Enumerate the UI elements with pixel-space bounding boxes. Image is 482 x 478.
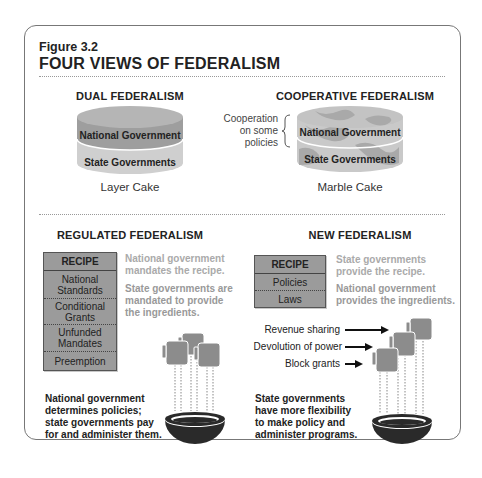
arrow-label-block-grants: Block grants <box>230 358 340 369</box>
brace-icon <box>282 114 292 148</box>
note-line: provides the ingredients. <box>336 295 455 307</box>
new-cans-bowl-icon <box>370 318 450 443</box>
coop-state-label: State Governments <box>295 154 405 165</box>
summary-line: determines policies; <box>45 405 162 417</box>
regulated-note-ingredients: State governments are mandated to provid… <box>125 283 233 319</box>
summary-line: administer programs. <box>255 429 357 441</box>
new-heading: NEW FEDERALISM <box>290 229 430 241</box>
cooperation-note: Cooperation on some policies <box>222 113 278 149</box>
note-line: State governments are <box>125 283 233 295</box>
recipe-item: Policies <box>255 274 325 290</box>
regulated-heading: REGULATED FEDERALISM <box>55 229 205 241</box>
note-line: provide the recipe. <box>336 266 426 278</box>
recipe-item: Laws <box>255 290 325 307</box>
recipe-item: National Standards <box>44 271 116 298</box>
summary-line: to make policy and <box>255 417 357 429</box>
arrow-label-devolution: Devolution of power <box>215 341 342 352</box>
note-line: mandated to provide <box>125 295 233 307</box>
dual-heading: DUAL FEDERALISM <box>60 90 200 102</box>
coop-national-label: National Government <box>295 127 405 138</box>
summary-line: have more flexibility <box>255 405 357 417</box>
recipe-item: Unfunded Mandates <box>44 324 116 351</box>
cooperation-note-line: Cooperation <box>222 113 278 125</box>
dual-state-label: State Governments <box>75 157 185 168</box>
note-line: National government <box>125 253 224 265</box>
dual-national-label: National Government <box>75 130 185 141</box>
note-line: mandates the recipe. <box>125 265 224 277</box>
summary-line: state governments pay <box>45 417 162 429</box>
regulated-recipe-card: RECIPE National Standards Conditional Gr… <box>43 252 117 371</box>
note-line: the ingredients. <box>125 307 233 319</box>
cooperation-note-line: on some <box>222 125 278 137</box>
recipe-item: Conditional Grants <box>44 298 116 324</box>
coop-caption: Marble Cake <box>295 181 405 193</box>
new-note-recipe: State governments provide the recipe. <box>336 254 426 278</box>
recipe-header: RECIPE <box>255 256 325 274</box>
regulated-summary: National government determines policies;… <box>45 393 162 441</box>
recipe-item: Preemption <box>44 351 116 370</box>
recipe-header: RECIPE <box>44 253 116 271</box>
figure-title: FOUR VIEWS OF FEDERALISM <box>39 55 280 73</box>
summary-line: National government <box>45 393 162 405</box>
figure-number: Figure 3.2 <box>39 40 98 54</box>
new-summary: State governments have more flexibility … <box>255 393 357 441</box>
summary-line: for and administer them. <box>45 429 162 441</box>
cooperation-note-line: policies <box>222 137 278 149</box>
note-line: State governments <box>336 254 426 266</box>
note-line: National government <box>336 283 455 295</box>
new-recipe-card: RECIPE Policies Laws <box>254 255 326 308</box>
regulated-note-recipe: National government mandates the recipe. <box>125 253 224 277</box>
can <box>162 333 220 367</box>
section-divider <box>39 214 445 215</box>
cooperative-heading: COOPERATIVE FEDERALISM <box>275 90 435 102</box>
summary-line: State governments <box>255 393 357 405</box>
dual-caption: Layer Cake <box>75 181 185 193</box>
title-divider <box>39 76 445 77</box>
arrow-label-revenue-sharing: Revenue sharing <box>230 324 340 335</box>
new-note-ingredients: National government provides the ingredi… <box>336 283 455 307</box>
